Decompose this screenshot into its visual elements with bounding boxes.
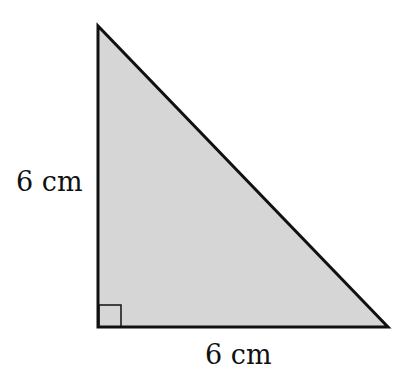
vertical-side-label: 6 cm [16, 166, 83, 197]
horizontal-side-label: 6 cm [205, 339, 272, 370]
right-triangle [98, 26, 388, 327]
triangle-diagram: 6 cm 6 cm [0, 0, 409, 383]
